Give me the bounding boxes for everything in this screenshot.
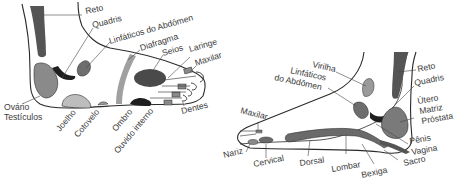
label-nariz: Nariz xyxy=(222,145,244,160)
right-utero-zone xyxy=(381,107,408,138)
left-ombro-zone xyxy=(130,98,151,106)
left-seios-zone xyxy=(134,69,166,87)
right-cervical-zone xyxy=(259,137,273,143)
label-testiculos: Testículos xyxy=(4,112,42,122)
right-virilha-zone xyxy=(363,79,375,97)
right-nariz-zone xyxy=(248,140,258,145)
label-quadris-right: Quadris xyxy=(413,72,445,88)
label-maxilar-right: Maxilar xyxy=(240,105,269,121)
left-foot: Reto Quadris Linfáticos do Abdômen Diafr… xyxy=(4,2,223,155)
right-linfaticos-zone xyxy=(353,102,368,119)
right-spine-zone xyxy=(285,128,388,148)
label-dentes: Dentes xyxy=(180,100,209,116)
left-reto-zone xyxy=(30,6,46,57)
label-reto-left: Reto xyxy=(84,2,104,16)
label-reto-right: Reto xyxy=(416,60,436,74)
label-maxilar-left: Maxilar xyxy=(194,50,224,68)
right-reto-zone xyxy=(392,52,408,99)
left-linfaticos-zone xyxy=(77,61,90,76)
right-maxilar-zone xyxy=(256,130,262,133)
label-cotovelo: Cotovelo xyxy=(72,107,102,140)
label-quadris-left: Quadris xyxy=(91,13,123,30)
label-bexiga: Bexiga xyxy=(360,165,388,180)
reflexology-diagram: Reto Quadris Linfáticos do Abdômen Diafr… xyxy=(0,0,458,188)
left-diafragma-zone xyxy=(116,54,136,104)
label-dorsal: Dorsal xyxy=(299,155,325,168)
label-sacro: Sacro xyxy=(402,153,426,167)
left-joelho-zone xyxy=(62,94,91,108)
label-ovario: Ovário xyxy=(4,102,30,112)
label-lombar: Lombar xyxy=(331,159,362,174)
label-cervical: Cervical xyxy=(252,153,285,169)
right-foot: Virilha Linfáticos do Abdômen Reto Quadr… xyxy=(222,52,454,180)
